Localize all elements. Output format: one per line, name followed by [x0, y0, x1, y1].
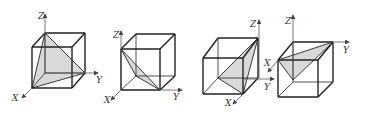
x-axis-label: X — [11, 93, 19, 103]
x-axis — [22, 88, 32, 98]
cube-edge — [203, 38, 218, 58]
x-axis-label: X — [224, 98, 232, 108]
cube-edge — [121, 34, 136, 49]
y-axis-label: Y — [264, 82, 271, 92]
cube-1: ZYX — [11, 11, 103, 103]
cube-4: ZYX — [263, 15, 350, 97]
y-axis-label: Y — [343, 45, 350, 55]
z-axis-label: Z — [249, 19, 257, 29]
x-axis — [111, 90, 121, 100]
y-axis-label: Y — [96, 75, 103, 85]
x-axis — [233, 94, 243, 104]
cube-edge — [160, 34, 175, 49]
z-axis-label: Z — [37, 11, 45, 21]
y-axis-label: Y — [173, 92, 180, 102]
x-axis-label: X — [103, 95, 111, 105]
cube-edge — [203, 78, 218, 94]
cube-edge — [160, 76, 175, 90]
cube-2: ZYX — [103, 30, 182, 105]
section-triangle — [121, 49, 160, 90]
cube-edge — [278, 82, 293, 97]
section-triangle — [278, 42, 333, 80]
cube-edge — [72, 33, 85, 47]
cube-sections-figure: ZYXZYXZYXZYX — [0, 0, 367, 115]
cube-edge — [121, 76, 136, 90]
z-axis-label: Z — [284, 16, 292, 26]
x-axis-label: X — [263, 58, 271, 68]
cube-edge — [318, 82, 333, 97]
z-axis-label: Z — [112, 30, 120, 40]
